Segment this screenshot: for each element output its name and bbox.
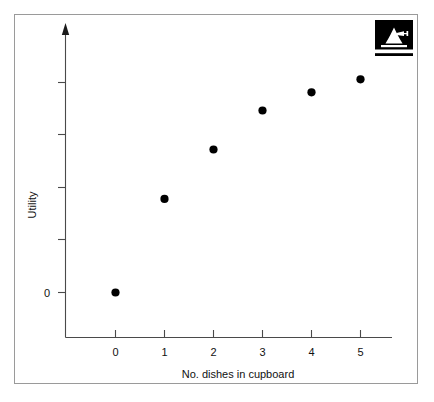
data-point: [160, 195, 168, 203]
data-point-group: [111, 75, 364, 296]
data-point: [356, 75, 364, 83]
x-tick-label-1: 1: [161, 346, 167, 358]
data-point: [209, 145, 217, 153]
data-point: [111, 288, 119, 296]
data-point: [307, 88, 315, 96]
x-tick-label-4: 4: [308, 346, 314, 358]
data-point: [258, 106, 266, 114]
bell-anvil-logo: [375, 20, 413, 56]
y-tick-label-0: 0: [44, 287, 50, 299]
x-tick-label-0: 0: [112, 346, 118, 358]
x-tick-label-2: 2: [210, 346, 216, 358]
logo-bottom-edge: [375, 53, 413, 56]
y-axis-title: Utility: [26, 191, 38, 218]
x-tick-label-3: 3: [259, 346, 265, 358]
figure-page: 0 Utility 0 1 2 3 4 5 No. dishes in cupb…: [0, 0, 434, 402]
x-axis-title: No. dishes in cupboard: [182, 368, 295, 380]
y-axis-arrowhead: [62, 23, 69, 35]
scatter-plot: 0 Utility 0 1 2 3 4 5 No. dishes in cupb…: [0, 0, 434, 402]
logo-base-line: [381, 45, 407, 47]
x-tick-label-5: 5: [357, 346, 363, 358]
